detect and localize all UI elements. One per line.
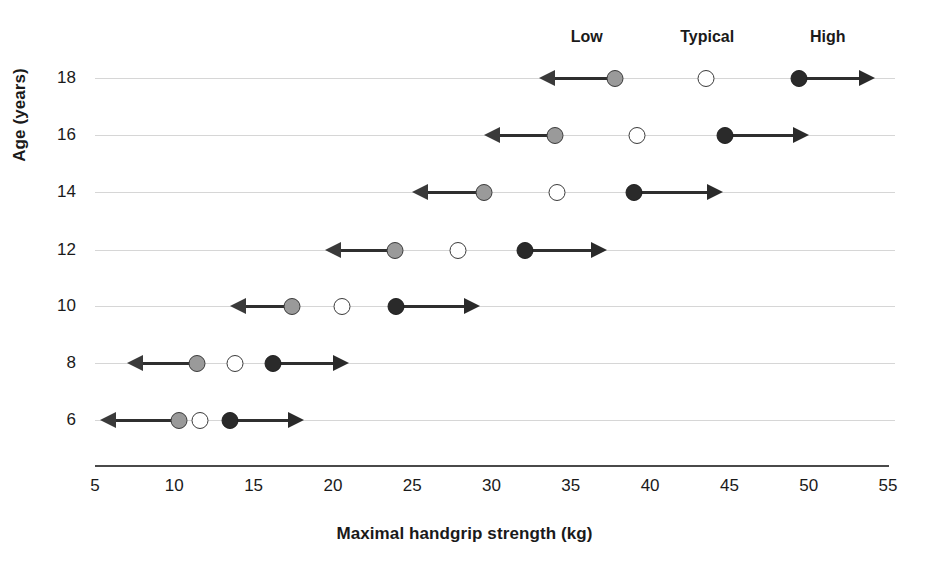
low-arrowhead-icon [230, 298, 246, 314]
gridline [95, 420, 895, 421]
gridline [95, 78, 895, 79]
x-axis-line [95, 465, 889, 467]
high-arrowhead-icon [288, 412, 304, 428]
gridline [95, 192, 895, 193]
x-tick-label: 10 [165, 476, 184, 496]
marker-high-age-8 [264, 355, 281, 372]
high-arrowhead-icon [859, 70, 875, 86]
marker-typical-age-14 [548, 184, 565, 201]
x-tick-label: 45 [720, 476, 739, 496]
x-tick-label: 50 [799, 476, 818, 496]
gridline [95, 250, 895, 251]
high-arrowhead-icon [707, 184, 723, 200]
marker-typical-age-10 [334, 298, 351, 315]
x-tick-label: 35 [561, 476, 580, 496]
low-arrowhead-icon [412, 184, 428, 200]
high-arrow-shaft [273, 362, 336, 365]
marker-high-age-10 [388, 298, 405, 315]
high-arrowhead-icon [793, 127, 809, 143]
high-arrow-shaft [525, 249, 594, 252]
marker-typical-age-12 [450, 242, 467, 259]
marker-high-age-12 [516, 242, 533, 259]
marker-high-age-14 [626, 184, 643, 201]
y-tick-label: 6 [42, 410, 76, 430]
category-label-high: High [810, 28, 846, 46]
marker-low-age-8 [188, 355, 205, 372]
marker-typical-age-16 [629, 127, 646, 144]
y-tick-label: 16 [42, 125, 76, 145]
marker-low-age-12 [386, 242, 403, 259]
low-arrow-shaft [113, 419, 179, 422]
x-tick-label: 25 [403, 476, 422, 496]
high-arrow-shaft [634, 191, 710, 194]
marker-low-age-14 [475, 184, 492, 201]
marker-low-age-6 [171, 412, 188, 429]
low-arrowhead-icon [127, 355, 143, 371]
y-tick-label: 8 [42, 353, 76, 373]
x-axis-title: Maximal handgrip strength (kg) [0, 524, 929, 544]
high-arrow-shaft [725, 134, 796, 137]
marker-typical-age-6 [191, 412, 208, 429]
x-tick-label: 20 [323, 476, 342, 496]
y-tick-label: 18 [42, 68, 76, 88]
category-label-low: Low [571, 28, 603, 46]
y-tick-label: 14 [42, 182, 76, 202]
high-arrowhead-icon [333, 355, 349, 371]
low-arrowhead-icon [100, 412, 116, 428]
plot-area: LowTypicalHigh181614121086 [0, 0, 929, 572]
high-arrowhead-icon [591, 242, 607, 258]
low-arrowhead-icon [539, 70, 555, 86]
x-tick-label: 55 [879, 476, 898, 496]
x-tick-label: 5 [90, 476, 99, 496]
marker-low-age-18 [607, 70, 624, 87]
marker-typical-age-8 [226, 355, 243, 372]
gridline [95, 363, 895, 364]
gridline [95, 306, 895, 307]
x-tick-label: 30 [482, 476, 501, 496]
marker-low-age-16 [546, 127, 563, 144]
y-tick-label: 10 [42, 296, 76, 316]
high-arrow-shaft [230, 419, 292, 422]
high-arrow-shaft [799, 77, 862, 80]
category-label-typical: Typical [680, 28, 734, 46]
low-arrowhead-icon [325, 242, 341, 258]
marker-high-age-6 [221, 412, 238, 429]
x-tick-label: 15 [244, 476, 263, 496]
x-tick-label: 40 [641, 476, 660, 496]
high-arrowhead-icon [464, 298, 480, 314]
marker-low-age-10 [283, 298, 300, 315]
marker-high-age-16 [716, 127, 733, 144]
marker-high-age-18 [791, 70, 808, 87]
handgrip-strength-chart: Age (years) LowTypicalHigh181614121086 M… [0, 0, 929, 572]
high-arrow-shaft [396, 305, 467, 308]
marker-typical-age-18 [697, 70, 714, 87]
low-arrowhead-icon [484, 127, 500, 143]
y-tick-label: 12 [42, 240, 76, 260]
